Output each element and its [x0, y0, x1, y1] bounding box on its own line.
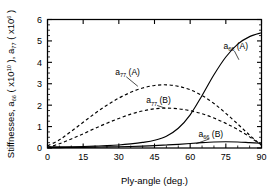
svg-text:Stiffnesses, a66 ( x1010 ), a: Stiffnesses, a66 ( x1010 ), a77 ( x106 )	[5, 10, 17, 158]
y-axis-title-mid2: ), a	[5, 48, 16, 65]
y-tick-label: 4	[37, 58, 42, 68]
annotation-label-a66-b: a66 (B)	[198, 129, 223, 140]
annotation-a66-a: a66 (A)	[223, 41, 248, 60]
y-axis-title-mid3: ( x10	[5, 19, 16, 43]
y-tick-label: 6	[37, 15, 42, 25]
y-tick-label: 0	[37, 143, 42, 153]
y-axis-title: Stiffnesses, a66 ( x1010 ), a77 ( x106 )	[5, 10, 17, 158]
x-tick-label: 75	[221, 152, 231, 162]
annotation-label-a77-a: a77 (A)	[115, 67, 140, 78]
x-tick-label: 0	[45, 152, 50, 162]
annotation-suffix-a66-a: (A)	[234, 41, 248, 51]
x-tick-label: 45	[149, 152, 159, 162]
annotation-leader-a66-a	[234, 51, 238, 60]
stiffness-vs-ply-angle-chart: 0153045607590 0123456 a66 (A)a66 (B)a77 …	[0, 0, 280, 191]
y-tick-label: 3	[37, 79, 42, 89]
annotation-label-a66-a: a66 (A)	[223, 41, 248, 52]
curve-a77-a	[48, 85, 262, 146]
x-tick-label: 30	[114, 152, 124, 162]
annotation-leader-a77-a	[126, 77, 138, 87]
annotation-suffix-a77-b: (B)	[157, 95, 171, 105]
y-tick-label: 1	[37, 122, 42, 132]
y-tick-label: 2	[37, 101, 42, 111]
y-axis-title-prefix: Stiffnesses, a	[5, 101, 16, 159]
annotation-a77-b: a77 (B)	[146, 95, 171, 108]
y-axis-tick-labels: 0123456	[37, 15, 42, 154]
curve-annotations: a66 (A)a66 (B)a77 (A)a77 (B)	[115, 41, 248, 144]
x-axis-tick-labels: 0153045607590	[45, 152, 267, 162]
y-axis-title-suffix: )	[5, 10, 16, 16]
annotation-suffix-a66-b: (B)	[209, 129, 223, 139]
x-tick-label: 60	[185, 152, 195, 162]
x-tick-label: 15	[78, 152, 88, 162]
x-tick-label: 90	[256, 152, 266, 162]
y-axis-title-mid: ( x10	[5, 71, 16, 95]
axis-ticks	[48, 20, 262, 149]
plot-frame	[48, 20, 262, 149]
annotation-suffix-a77-a: (A)	[126, 67, 140, 77]
annotation-leader-a77-b	[157, 105, 165, 108]
y-tick-label: 5	[37, 36, 42, 46]
figure-container: 0153045607590 0123456 a66 (A)a66 (B)a77 …	[0, 0, 280, 191]
x-axis-title: Ply-angle (deg.)	[121, 175, 188, 186]
annotation-a77-a: a77 (A)	[115, 67, 140, 87]
annotation-label-a77-b: a77 (B)	[146, 95, 171, 106]
